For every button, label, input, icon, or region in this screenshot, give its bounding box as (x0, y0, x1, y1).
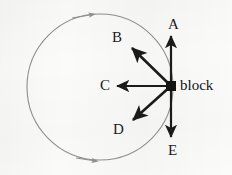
vector-c-label: C (100, 78, 110, 93)
vector-a-label: A (168, 17, 179, 32)
vector-b-label: B (112, 30, 122, 45)
block-label: block (180, 78, 213, 93)
vector-e-label: E (168, 143, 177, 158)
vector-d (133, 89, 167, 120)
block-square (166, 81, 176, 91)
vector-d-label: D (113, 122, 124, 137)
circular-motion-diagram: A B C D E block (0, 0, 232, 175)
top-direction-arrowhead (72, 15, 93, 19)
vector-b (132, 48, 167, 83)
